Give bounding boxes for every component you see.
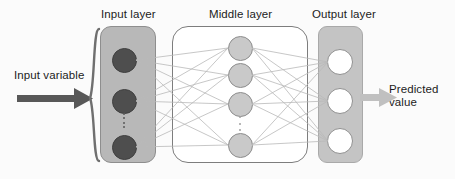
- output-layer-label: Output layer: [312, 8, 376, 20]
- input-variable-label: Input variable: [14, 69, 84, 82]
- middle-node: [228, 36, 253, 61]
- middle-node: [228, 63, 253, 88]
- input-arrow-icon: [17, 88, 93, 109]
- middle-ellipsis-icon: [239, 116, 241, 131]
- middle-layer-label: Middle layer: [209, 8, 272, 20]
- input-layer-label: Input layer: [101, 8, 156, 20]
- left-curly-brace-icon: [90, 29, 99, 161]
- predicted-value-line-1: Predicted: [389, 83, 438, 96]
- input-node: [112, 48, 137, 73]
- middle-node: [228, 133, 253, 158]
- input-node: [112, 135, 137, 160]
- predicted-value-label: Predicted value: [389, 83, 438, 109]
- middle-node: [228, 92, 253, 117]
- predicted-value-line-2: value: [389, 96, 438, 109]
- neural-network-diagram: Input layer Middle layer Output layer In…: [0, 0, 455, 179]
- input-ellipsis-icon: [123, 113, 125, 128]
- output-node: [327, 128, 353, 154]
- input-node: [112, 89, 137, 114]
- output-node: [327, 49, 353, 75]
- output-node: [327, 88, 353, 114]
